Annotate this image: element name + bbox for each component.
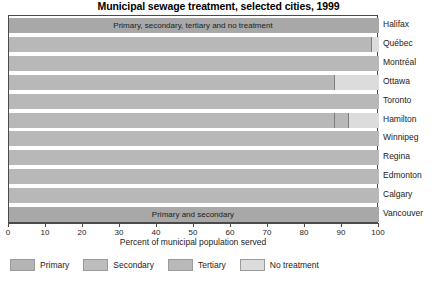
x-axis-tick [193,223,194,227]
bar-segment-primary [9,18,379,33]
x-axis-tick-label: 100 [371,229,384,237]
bar-row [9,131,377,146]
bar-segment-primary [9,207,379,222]
x-axis-tick-label: 20 [78,229,87,237]
category-label-hamilton: Hamilton [383,115,417,124]
category-label-regina: Regina [383,152,410,161]
bar-row [9,169,377,184]
legend-label: Secondary [113,261,154,270]
category-labels: HalifaxQuébecMontréalOttawaTorontoHamilt… [383,15,437,223]
legend-item-primary: Primary [10,259,69,271]
x-axis: 0102030405060708090100 [8,223,378,224]
bar-row [9,188,377,203]
bar-segment-primary [9,37,372,52]
chart-legend: PrimarySecondaryTertiaryNo treatment [10,256,333,274]
plot-area: Primary, secondary, tertiary and no trea… [8,15,378,223]
legend-label: Primary [40,261,69,270]
x-axis-tick [8,223,9,227]
bar-row [9,75,377,90]
legend-item-secondary: Secondary [83,259,154,271]
legend-item-no-treatment: No treatment [240,259,319,271]
x-axis-tick-label: 0 [6,229,10,237]
x-axis-tick-label: 50 [189,229,198,237]
legend-label: No treatment [270,261,319,270]
x-axis-tick [119,223,120,227]
legend-swatch [240,259,265,271]
category-label-halifax: Halifax [383,20,409,29]
category-label-winnipeg: Winnipeg [383,133,418,142]
legend-swatch [83,259,108,271]
bar-segment-primary [9,131,379,146]
x-axis-tick [267,223,268,227]
legend-swatch [168,259,193,271]
category-label-québec: Québec [383,39,413,48]
x-axis-tick [82,223,83,227]
sewage-treatment-chart: Municipal sewage treatment, selected cit… [0,0,437,284]
x-axis-tick [230,223,231,227]
bar-row [9,94,377,109]
bar-segment-primary [9,188,379,203]
x-axis-tick [341,223,342,227]
bar-segment-primary [9,56,379,71]
bar-row: Primary and secondary [9,207,377,222]
category-label-ottawa: Ottawa [383,77,410,86]
bar-row [9,37,377,52]
x-axis-tick-label: 10 [41,229,50,237]
category-label-calgary: Calgary [383,190,412,199]
category-label-edmonton: Edmonton [383,171,422,180]
x-axis-tick-label: 40 [152,229,161,237]
bar-segment-primary [9,94,379,109]
x-axis-tick [378,223,379,227]
x-axis-tick-label: 30 [115,229,124,237]
category-label-toronto: Toronto [383,96,411,105]
bar-segment-no-treatment [335,75,379,90]
bar-segment-primary [9,75,335,90]
bar-row: Primary, secondary, tertiary and no trea… [9,18,377,33]
bar-segment-no-treatment [372,37,379,52]
x-axis-tick [156,223,157,227]
x-axis-tick-label: 90 [337,229,346,237]
x-axis-tick [304,223,305,227]
bar-row [9,56,377,71]
x-axis-tick-label: 60 [226,229,235,237]
bar-segment-tertiary [335,113,350,128]
bar-segment-primary [9,150,379,165]
legend-label: Tertiary [198,261,226,270]
chart-title: Municipal sewage treatment, selected cit… [0,0,437,13]
bar-segment-no-treatment [349,113,379,128]
category-label-vancouver: Vancouver [383,209,423,218]
category-label-montréal: Montréal [383,58,416,67]
bar-segment-primary [9,113,335,128]
bars-layer: Primary, secondary, tertiary and no trea… [9,16,377,222]
legend-swatch [10,259,35,271]
x-axis-tick [45,223,46,227]
bar-row [9,150,377,165]
bar-row [9,113,377,128]
x-axis-tick-label: 80 [300,229,309,237]
legend-item-tertiary: Tertiary [168,259,226,271]
x-axis-tick-label: 70 [263,229,272,237]
x-axis-title: Percent of municipal population served [8,238,378,247]
bar-segment-primary [9,169,379,184]
